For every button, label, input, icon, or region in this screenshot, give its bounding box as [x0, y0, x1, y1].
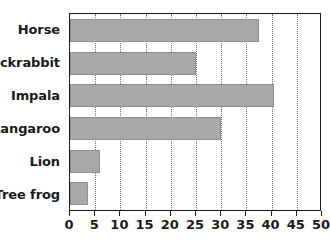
bar-row [70, 79, 320, 112]
category-label-cell: Lion [0, 145, 64, 178]
x-tick-label: 15 [136, 217, 154, 232]
category-label-cell: Kangaroo [0, 112, 64, 145]
x-tick-mark [245, 211, 246, 216]
x-tick-label: 20 [161, 217, 179, 232]
category-label: Kangaroo [0, 121, 60, 136]
x-tick-label: 25 [186, 217, 204, 232]
bar-row [70, 14, 320, 47]
x-tick-label: 30 [211, 217, 229, 232]
bar-row [70, 47, 320, 80]
category-label-cell: Jackrabbit [0, 46, 64, 79]
x-tick-mark [195, 211, 196, 216]
x-axis: 05101520253035404550 [69, 211, 321, 241]
bar [70, 117, 221, 140]
category-label: Jackrabbit [0, 55, 60, 70]
x-tick-label: 35 [236, 217, 254, 232]
bar [70, 150, 100, 173]
bar [70, 52, 196, 75]
category-label: Tree frog [0, 187, 60, 202]
category-label-cell: Impala [0, 79, 64, 112]
plot-inner [70, 14, 320, 210]
category-label-cell: Horse [0, 13, 64, 46]
x-tick-mark [170, 211, 171, 216]
category-axis: HorseJackrabbitImpalaKangarooLionTree fr… [0, 13, 64, 211]
plot-area [69, 13, 321, 211]
x-tick-label: 50 [312, 217, 330, 232]
x-tick-label: 40 [262, 217, 280, 232]
bar-row [70, 177, 320, 210]
category-label-cell: Tree frog [0, 178, 64, 211]
category-label: Horse [18, 22, 60, 37]
x-tick-mark [271, 211, 272, 216]
bar [70, 182, 88, 205]
x-tick-mark [145, 211, 146, 216]
bar [70, 19, 259, 42]
bar [70, 84, 274, 107]
bar-row [70, 112, 320, 145]
x-tick-mark [69, 211, 70, 216]
x-tick-label: 10 [110, 217, 128, 232]
x-tick-label: 0 [64, 217, 73, 232]
category-label: Impala [11, 88, 60, 103]
x-tick-mark [119, 211, 120, 216]
x-tick-label: 45 [287, 217, 305, 232]
bars-layer [70, 14, 320, 210]
x-tick-mark [220, 211, 221, 216]
x-tick-mark [296, 211, 297, 216]
x-tick-label: 5 [90, 217, 99, 232]
bar-row [70, 145, 320, 178]
x-tick-mark [94, 211, 95, 216]
x-tick-mark [321, 211, 322, 216]
category-label: Lion [29, 154, 60, 169]
